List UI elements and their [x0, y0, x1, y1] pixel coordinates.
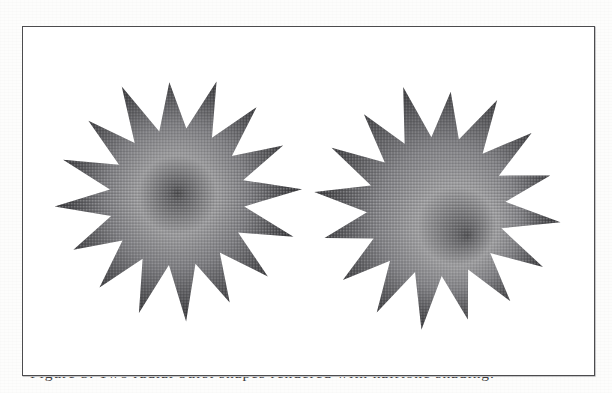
- figure-canvas: [23, 27, 594, 375]
- right-starburst-label: Right starburst: [0, 0, 1, 1]
- figure-caption: Figure 3. Two radial burst shapes render…: [30, 377, 590, 382]
- figure-frame: [22, 26, 595, 376]
- scanned-page: Figure 3. Two radial burst shapes render…: [0, 0, 612, 393]
- figure-caption-strip: Figure 3. Two radial burst shapes render…: [0, 377, 612, 393]
- left-starburst-label: Left starburst: [0, 0, 1, 1]
